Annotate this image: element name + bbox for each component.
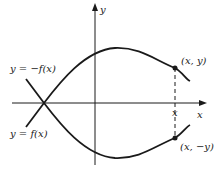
y-axis-arrow-icon — [92, 3, 98, 11]
x-axis-arrow-icon — [199, 100, 207, 106]
curve-reflected — [26, 48, 190, 127]
reflection-diagram: y x x (x, y) (x, −y) y = −f(x) y = f(x) — [0, 0, 214, 171]
curve-original — [26, 79, 190, 158]
x-tick-label: x — [172, 107, 178, 118]
upper-point-marker — [173, 66, 178, 71]
y-axis — [92, 3, 98, 165]
lower-point-marker — [173, 136, 178, 141]
lower-point-label: (x, −y) — [180, 141, 214, 152]
x-axis-label: x — [197, 109, 203, 120]
original-curve-label: y = f(x) — [9, 128, 48, 139]
y-axis-label: y — [99, 4, 106, 15]
x-axis — [12, 100, 207, 106]
reflected-curve-label: y = −f(x) — [9, 63, 56, 74]
upper-point-label: (x, y) — [181, 55, 207, 66]
